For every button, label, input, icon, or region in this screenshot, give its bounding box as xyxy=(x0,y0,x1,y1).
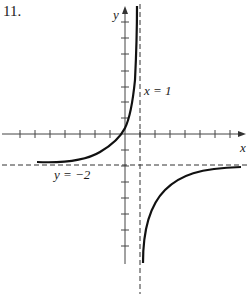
x-axis-label: x xyxy=(240,141,246,154)
graph-figure: 11. xyxy=(0,0,248,296)
curve-left-branch xyxy=(37,6,137,162)
horizontal-asymptote-label: y = −2 xyxy=(54,168,90,181)
vertical-asymptote-label: x = 1 xyxy=(144,84,172,97)
curve-right-branch xyxy=(143,167,241,263)
y-axis-label: y xyxy=(113,8,119,21)
y-axis-arrow-icon xyxy=(122,6,128,14)
x-axis-arrow-icon xyxy=(238,131,246,137)
y-axis xyxy=(121,6,129,264)
graph-canvas xyxy=(0,0,248,296)
